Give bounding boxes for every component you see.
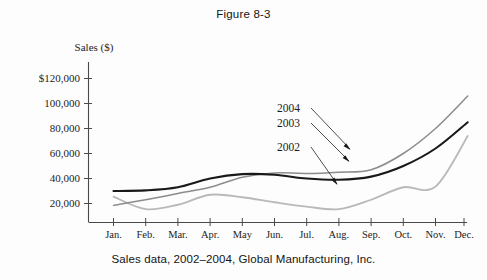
y-tick-label-120000: $120,000 <box>39 72 81 84</box>
figure-caption: Sales data, 2002–2004, Global Manufactur… <box>0 253 487 265</box>
x-tick-label-jul: Jul. <box>299 229 314 240</box>
line-chart-plot: Sales ($) $120,000 100,000 80,000 60,000… <box>0 0 487 280</box>
x-tick-label-aug: Aug. <box>329 229 350 240</box>
y-tick-label-60000: 60,000 <box>50 147 81 159</box>
y-axis-title: Sales ($) <box>75 41 114 54</box>
y-tick-label-40000: 40,000 <box>50 172 81 184</box>
x-tick-label-jun: Jun. <box>266 229 283 240</box>
arrow-head-2002 <box>331 178 337 185</box>
figure-container: Figure 8-3 <box>0 0 487 280</box>
y-tick-label-20000: 20,000 <box>50 197 81 209</box>
x-tick-label-dec: Dec. <box>454 229 474 240</box>
x-tick-label-apr: Apr. <box>201 229 219 240</box>
x-tick-label-nov: Nov. <box>425 229 445 240</box>
x-tick-label-jan: Jan. <box>105 229 122 240</box>
x-tick-label-may: May <box>233 229 253 240</box>
series-label-2002: 2002 <box>277 141 300 153</box>
x-tick-label-oct: Oct. <box>394 229 412 240</box>
series-label-2004: 2004 <box>277 102 300 114</box>
x-tick-label-sep: Sep. <box>362 229 380 240</box>
series-line-2004 <box>114 122 468 191</box>
x-tick-label-mar: Mar. <box>168 229 188 240</box>
series-label-2003: 2003 <box>277 117 300 129</box>
y-tick-label-80000: 80,000 <box>50 122 81 134</box>
arrow-head-2004 <box>344 143 351 150</box>
x-tick-label-feb: Feb. <box>137 229 155 240</box>
y-tick-label-100000: 100,000 <box>44 97 80 109</box>
